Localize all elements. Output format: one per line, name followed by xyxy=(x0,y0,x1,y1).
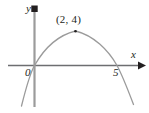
vertex-coordinate-label: (2, 4) xyxy=(56,14,81,25)
x-axis-label: x xyxy=(131,49,136,60)
y-axis-label: y xyxy=(26,3,31,14)
y-axis-arrowhead xyxy=(31,6,37,13)
vertex-point-marker xyxy=(74,30,77,33)
parabola-figure: y x 0 5 (2, 4) xyxy=(0,0,149,113)
origin-label: 0 xyxy=(25,67,31,78)
x-axis-arrowhead xyxy=(138,62,146,70)
x-intercept-label: 5 xyxy=(113,67,119,78)
